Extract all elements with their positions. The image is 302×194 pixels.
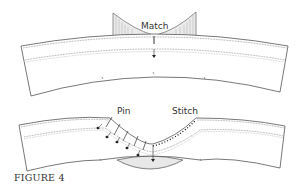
bottom-band-figure [19, 117, 285, 171]
stitch-label: Stitch [172, 106, 198, 116]
pin-label: Pin [117, 106, 130, 116]
figure-caption: FIGURE 4 [14, 172, 65, 183]
collar-curve-piece [117, 156, 183, 169]
sewing-diagram: Match [0, 0, 302, 194]
match-label: Match [141, 21, 168, 31]
